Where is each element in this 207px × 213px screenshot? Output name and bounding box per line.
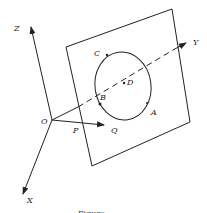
y-axis-solid [52,107,78,120]
y-axis-dashed [78,50,173,107]
circle [91,48,156,123]
label-p: P [72,126,79,135]
point-d-dot [123,82,125,84]
plane [66,9,190,166]
figure-caption: Figure [78,209,105,213]
y-axis-tip [173,43,186,50]
label-b: B [99,93,106,102]
label-d: D [126,78,134,87]
diagram-canvas: Z X Y O C D B A P Q Figure [0,0,207,213]
label-o: O [41,117,48,126]
point-a-dot [146,102,148,104]
label-y: Y [193,38,199,47]
label-z: Z [13,24,20,33]
label-q: Q [111,126,118,135]
point-c-dot [106,54,108,56]
z-axis [31,27,52,120]
point-b-dot [99,103,102,106]
x-axis [23,120,52,194]
vector-oq [52,120,104,125]
label-c: C [94,49,100,58]
label-a: A [150,108,157,117]
label-x: X [26,196,33,205]
